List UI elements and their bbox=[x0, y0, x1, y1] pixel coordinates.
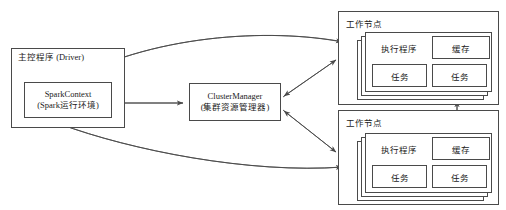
sparkcontext-subtitle: (Spark运行环境) bbox=[37, 100, 99, 111]
worker-node-top-title: 工作节点 bbox=[346, 17, 382, 29]
executor-card-bottom: 执行程序 缓存 任务 任务 bbox=[365, 133, 492, 193]
worker-node-top: 工作节点 执行程序 缓存 任务 任务 bbox=[338, 11, 499, 105]
worker-node-bottom-title: 工作节点 bbox=[346, 116, 382, 128]
task-box-bottom-1: 任务 bbox=[372, 165, 427, 188]
task-box-bottom-2: 任务 bbox=[432, 165, 487, 188]
worker-node-bottom: 工作节点 执行程序 缓存 任务 任务 bbox=[338, 110, 499, 205]
spark-architecture-diagram: 主控程序 (Driver) SparkContext (Spark运行环境) C… bbox=[0, 0, 506, 210]
executor-card-top: 执行程序 缓存 任务 任务 bbox=[365, 32, 492, 92]
cluster-manager-title: ClusterManager bbox=[208, 91, 263, 102]
sparkcontext-title: SparkContext bbox=[45, 89, 92, 100]
edge-clustermanager-worker-top bbox=[283, 60, 336, 97]
driver-label: 主控程序 (Driver) bbox=[18, 53, 84, 63]
edge-sparkcontext-worker-bottom bbox=[60, 124, 342, 168]
executor-label-top: 执行程序 bbox=[368, 37, 430, 59]
executor-label-bottom: 执行程序 bbox=[368, 138, 430, 160]
cluster-manager-box: ClusterManager (集群资源管理器) bbox=[189, 83, 281, 121]
edge-clustermanager-worker-bottom bbox=[283, 110, 336, 152]
cache-box-bottom: 缓存 bbox=[432, 137, 490, 160]
task-box-top-2: 任务 bbox=[432, 64, 487, 87]
edge-worker-bottom-sparkcontext bbox=[60, 124, 344, 168]
cluster-manager-subtitle: (集群资源管理器) bbox=[201, 102, 270, 113]
cache-box-top: 缓存 bbox=[432, 36, 490, 59]
task-box-top-1: 任务 bbox=[372, 64, 427, 87]
sparkcontext-box: SparkContext (Spark运行环境) bbox=[24, 82, 112, 118]
